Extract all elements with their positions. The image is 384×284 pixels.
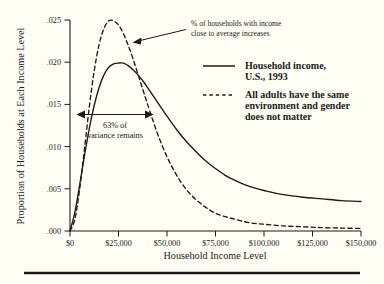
annotation-variance-line-1: 63% of — [103, 121, 127, 130]
legend-item-1-line-2: does not matter — [245, 111, 312, 122]
x-tick-label-5: $125,000 — [297, 239, 328, 248]
x-axis-title: Household Income Level — [164, 250, 267, 261]
y-tick-label-1: .005 — [47, 185, 61, 194]
x-tick-label-0: $0 — [66, 239, 74, 248]
x-tick-label-4: $100,000 — [249, 239, 280, 248]
legend-item-1-line-0: All adults have the same — [245, 89, 349, 100]
legend-item-0-line-1: U.S., 1993 — [245, 71, 288, 82]
annotation-peak-line-1: % of households with income — [191, 19, 282, 28]
annotation-variance-line-2: variance remains — [87, 131, 143, 140]
x-tick-label-2: $50,000 — [154, 239, 181, 248]
y-tick-label-4: .020 — [47, 58, 61, 67]
income-distribution-chart: .000.005.010.015.020.025 $0$25,000$50,00… — [0, 0, 384, 284]
annotation-peak-line-2: close to average increases — [191, 29, 270, 38]
legend-item-0-line-0: Household income, — [245, 60, 327, 71]
x-tick-label-3: $75,000 — [202, 239, 229, 248]
x-tick-label-1: $25,000 — [105, 239, 132, 248]
y-axis-title: Proportion of Households at Each Income … — [15, 27, 26, 224]
y-tick-label-3: .015 — [47, 100, 61, 109]
y-tick-label-0: .000 — [47, 227, 61, 236]
y-tick-label-2: .010 — [47, 143, 61, 152]
y-tick-label-5: .025 — [47, 16, 61, 25]
x-tick-label-6: $150,000 — [346, 239, 377, 248]
legend-item-1-line-1: environment and gender — [245, 100, 350, 111]
